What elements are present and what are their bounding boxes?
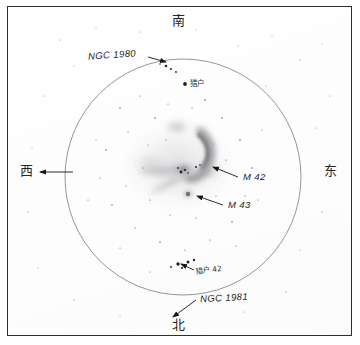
star-trapezium-b xyxy=(184,169,186,171)
star-42-ori-b xyxy=(187,261,190,264)
star-core-east-2 xyxy=(199,164,201,166)
nebula-group xyxy=(120,119,236,212)
sky-drawing xyxy=(0,0,360,345)
star-ngc1980-a xyxy=(165,65,168,68)
orion-sketch-plate: 南 北 西 东 NGC 1980 M 42 M 43 NGC 1981 猎户 猎… xyxy=(0,0,360,345)
star-trapezium-a xyxy=(180,171,183,174)
star-42-ori-c xyxy=(193,259,195,261)
star-core-east xyxy=(195,166,197,168)
label-m42: M 42 xyxy=(243,172,266,182)
cardinal-west: 西 xyxy=(20,164,33,177)
nebula-core-glow xyxy=(170,160,198,178)
label-m43: M 43 xyxy=(228,200,251,210)
star-42-ori-a xyxy=(176,262,179,265)
star-42-ori-d xyxy=(181,267,183,269)
nebula-west-haze xyxy=(130,152,170,174)
star-trapezium-d xyxy=(187,172,189,174)
label-star-orion: 猎户 xyxy=(190,80,204,88)
cardinal-north: 北 xyxy=(172,318,185,331)
star-ngc1980-d xyxy=(159,63,161,65)
star-ngc1980-c xyxy=(175,71,177,73)
arrow-42-ori xyxy=(181,264,194,270)
star-ngc1980-b xyxy=(170,68,172,70)
cardinal-east: 东 xyxy=(324,164,337,177)
nebula-north-patch xyxy=(163,119,191,135)
label-ngc1981: NGC 1981 xyxy=(200,292,249,304)
star-42-ori-e xyxy=(170,266,172,268)
m43-central-star xyxy=(186,192,190,196)
arrow-ngc1980 xyxy=(148,57,166,62)
cardinal-south: 南 xyxy=(172,14,185,27)
star-trapezium-c xyxy=(177,167,179,169)
star-field xyxy=(27,28,336,317)
arrow-ngc1981 xyxy=(173,300,196,317)
star-orion-upper xyxy=(183,82,187,86)
